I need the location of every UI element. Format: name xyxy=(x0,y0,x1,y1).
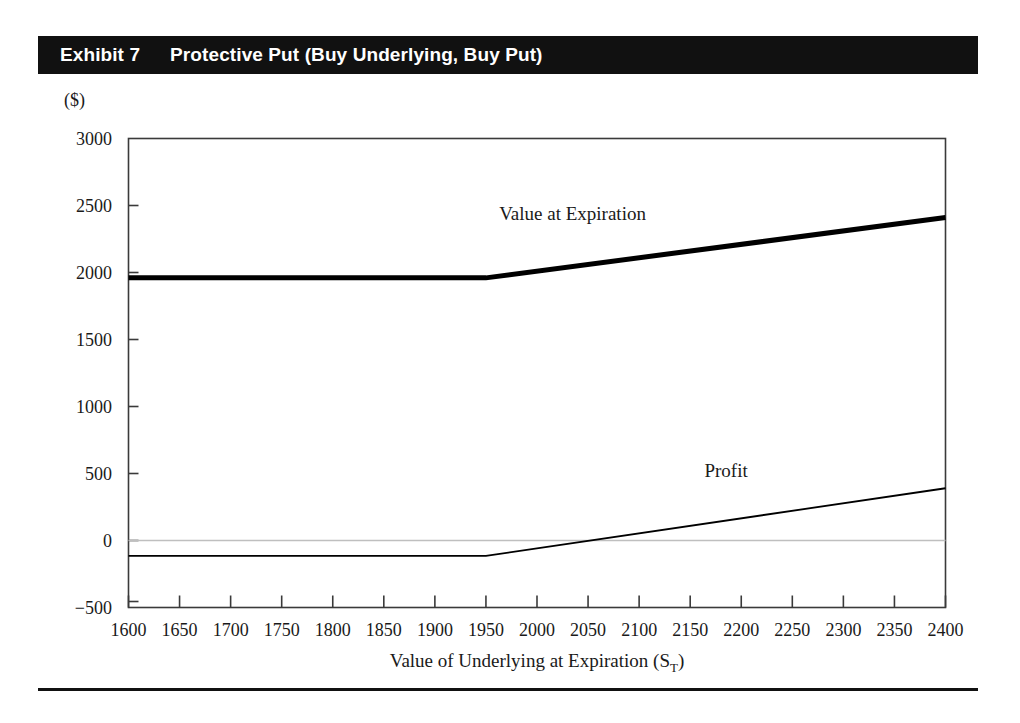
x-axis-title-subscript: T xyxy=(670,660,678,675)
series-line-profit xyxy=(129,488,946,556)
plot-area xyxy=(0,0,1020,723)
x-axis-ticks xyxy=(129,596,946,608)
exhibit-page: Exhibit 7 Protective Put (Buy Underlying… xyxy=(0,0,1020,723)
x-axis-title-tail: ) xyxy=(678,650,684,671)
series-line-value-at-expiration xyxy=(129,218,946,278)
series-annotation-value-at-expiration: Value at Expiration xyxy=(499,203,646,225)
y-axis-ticks xyxy=(129,206,139,602)
x-axis-title: Value of Underlying at Expiration (ST) xyxy=(128,650,946,676)
x-axis-title-main: Value of Underlying at Expiration (S xyxy=(390,650,670,671)
footer-rule xyxy=(38,688,978,691)
chart-figure: ($) 300025002000150010005000−500 1600165… xyxy=(0,0,1020,723)
series-annotation-profit: Profit xyxy=(704,460,747,482)
